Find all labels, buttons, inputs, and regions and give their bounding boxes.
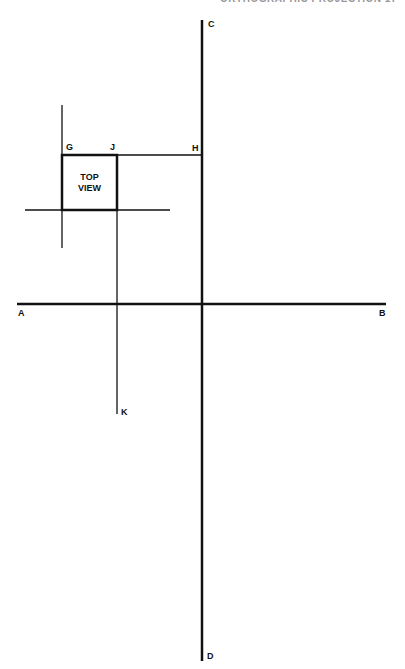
projection-diagram (0, 0, 405, 669)
label-j: J (110, 143, 115, 152)
label-h: H (192, 144, 199, 153)
label-g: G (66, 143, 73, 152)
top-view-line2: VIEW (62, 183, 117, 194)
label-a: A (18, 309, 25, 318)
top-view-label: TOP VIEW (62, 172, 117, 194)
label-d: D (207, 652, 214, 661)
label-c: C (208, 20, 215, 29)
top-view-line1: TOP (62, 172, 117, 183)
label-b: B (379, 309, 386, 318)
label-k: K (121, 408, 128, 417)
